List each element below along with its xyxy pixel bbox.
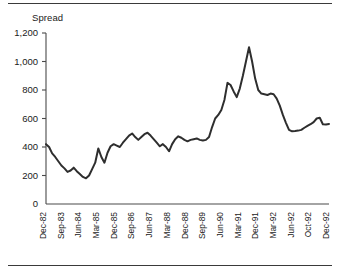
chart-figure: Spread 02004006008001,0001,200 Dec-82Sep… — [0, 0, 340, 270]
x-axis: Dec-82Sep-83Jun-84Mar-85Dec-85Sep-86Jun-… — [38, 204, 331, 239]
x-tick-label: Oct-92 — [303, 212, 313, 237]
data-series-group — [46, 47, 329, 178]
y-tick-label: 200 — [22, 170, 38, 181]
x-tick-label: Sep-89 — [197, 212, 207, 239]
x-tick-label: Dec-85 — [109, 212, 119, 239]
x-tick-label: Mar-92 — [268, 212, 278, 239]
y-axis: 02004006008001,0001,200 — [14, 27, 46, 209]
y-tick-label: 400 — [22, 141, 38, 152]
y-tick-label: 1,000 — [14, 56, 38, 67]
y-tick-label: 800 — [22, 84, 38, 95]
x-tick-label: Jun-84 — [73, 212, 83, 238]
x-tick-label: Dec-91 — [250, 212, 260, 239]
x-tick-label: Mar-88 — [162, 212, 172, 239]
y-tick-label: 0 — [33, 198, 38, 209]
data-line-spread — [46, 47, 329, 178]
x-tick-label: Sep-83 — [56, 212, 66, 239]
x-tick-label: Mar-85 — [91, 212, 101, 239]
line-chart-plot: 02004006008001,0001,200 Dec-82Sep-83Jun-… — [0, 0, 340, 270]
x-tick-label: Dec-92 — [321, 212, 331, 239]
x-tick-label: Dec-88 — [180, 212, 190, 239]
x-tick-label: Jun-87 — [144, 212, 154, 238]
y-tick-label: 1,200 — [14, 27, 38, 38]
x-tick-label: Dec-82 — [38, 212, 48, 239]
x-tick-label: Mar-91 — [233, 212, 243, 239]
x-tick-label: Jun-92 — [286, 212, 296, 238]
x-tick-label: Sep-86 — [126, 212, 136, 239]
y-tick-label: 600 — [22, 113, 38, 124]
x-tick-label: Jun-90 — [215, 212, 225, 238]
